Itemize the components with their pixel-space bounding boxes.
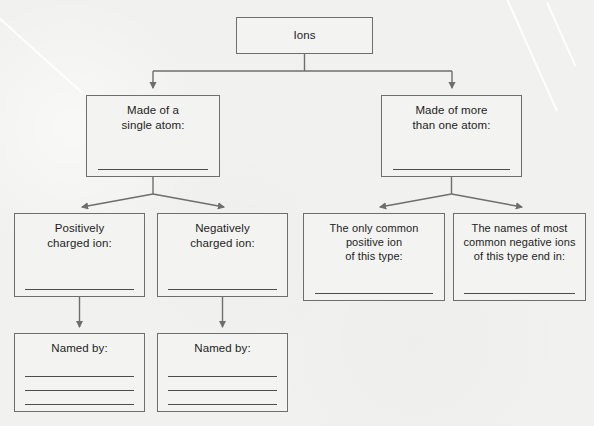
answer-blank-line[interactable]	[315, 293, 433, 294]
node-ions-label: Ions	[289, 25, 319, 43]
answer-blank-line[interactable]	[168, 376, 276, 377]
node-named-by-positive[interactable]: Named by:	[14, 333, 145, 412]
connector-multi-to-types	[380, 177, 522, 207]
answer-blank-line[interactable]	[25, 289, 133, 290]
answer-blank-line[interactable]	[25, 404, 133, 405]
answer-blanks	[304, 263, 444, 300]
answer-blanks	[15, 250, 144, 296]
node-made-of-more-than-one-atom[interactable]: Made of more than one atom:	[381, 95, 522, 177]
answer-blank-line[interactable]	[168, 289, 276, 290]
node-negatively-charged-ion-label: Negatively charged ion:	[186, 221, 259, 250]
node-negative-ion-name-ending-label: The names of most common negative ions o…	[462, 221, 576, 263]
answer-blanks	[158, 250, 287, 296]
node-positively-charged-ion[interactable]: Positively charged ion:	[14, 213, 145, 297]
node-named-by-negative-label: Named by:	[190, 341, 255, 356]
node-negatively-charged-ion[interactable]: Negatively charged ion:	[157, 213, 288, 297]
answer-blanks	[158, 356, 287, 412]
node-only-common-positive-ion[interactable]: The only common positive ion of this typ…	[303, 213, 445, 301]
answer-blanks	[87, 132, 219, 176]
node-made-of-single-atom[interactable]: Made of a single atom:	[86, 95, 220, 177]
answer-blank-line[interactable]	[25, 390, 133, 391]
answer-blank-line[interactable]	[168, 390, 276, 391]
node-made-of-more-than-one-atom-label: Made of more than one atom:	[408, 103, 494, 132]
concept-map-worksheet: Ions Made of a single atom: Made of more…	[0, 0, 594, 426]
answer-blank-line[interactable]	[464, 293, 574, 294]
answer-blank-line[interactable]	[98, 169, 209, 170]
answer-blank-line[interactable]	[393, 169, 510, 170]
node-positively-charged-ion-label: Positively charged ion:	[43, 221, 116, 250]
node-made-of-single-atom-label: Made of a single atom:	[117, 103, 188, 132]
node-named-by-negative[interactable]: Named by:	[157, 333, 288, 412]
answer-blank-line[interactable]	[168, 404, 276, 405]
node-negative-ion-name-ending[interactable]: The names of most common negative ions o…	[453, 213, 586, 301]
node-named-by-positive-label: Named by:	[47, 341, 112, 356]
node-only-common-positive-ion-label: The only common positive ion of this typ…	[326, 221, 423, 263]
answer-blanks	[454, 263, 585, 300]
answer-blanks	[15, 356, 144, 412]
answer-blank-line[interactable]	[25, 376, 133, 377]
connector-single-to-charges	[82, 177, 224, 207]
answer-blanks	[382, 132, 521, 176]
connector-ions-to-level2	[153, 54, 452, 88]
node-ions[interactable]: Ions	[236, 17, 373, 54]
